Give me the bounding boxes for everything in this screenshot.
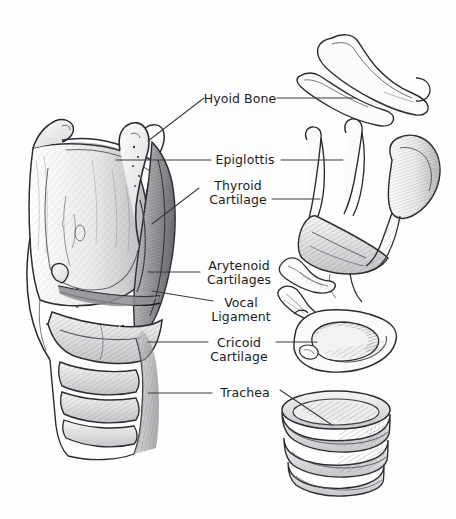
label-hyoid-bone-line-0: Hyoid Bone <box>204 92 277 106</box>
label-arytenoid-cartilages: Arytenoid Cartilages <box>207 259 271 287</box>
label-cricoid-cartilage-line-1: Cartilage <box>210 350 268 364</box>
label-thyroid-cartilage-line-1: Cartilage <box>209 193 267 207</box>
label-thyroid-cartilage: Thyroid Cartilage <box>209 179 267 207</box>
label-vocal-ligament-line-0: Vocal <box>211 296 271 310</box>
label-trachea-line-0: Trachea <box>220 386 269 400</box>
label-vocal-ligament-line-1: Ligament <box>211 310 271 324</box>
label-cricoid-cartilage-line-0: Cricoid <box>210 336 268 350</box>
label-arytenoid-cartilages-line-1: Cartilages <box>207 273 271 287</box>
label-trachea: Trachea <box>220 386 269 400</box>
label-vocal-ligament: Vocal Ligament <box>211 296 271 324</box>
label-epiglottis: Epiglottis <box>215 153 274 167</box>
label-epiglottis-line-0: Epiglottis <box>215 153 274 167</box>
label-arytenoid-cartilages-line-0: Arytenoid <box>207 259 271 273</box>
label-thyroid-cartilage-line-0: Thyroid <box>209 179 267 193</box>
larynx-anatomy-figure: Hyoid Bone Epiglottis Thyroid Cartilage … <box>0 0 456 519</box>
label-hyoid-bone: Hyoid Bone <box>204 92 277 106</box>
label-cricoid-cartilage: Cricoid Cartilage <box>210 336 268 364</box>
